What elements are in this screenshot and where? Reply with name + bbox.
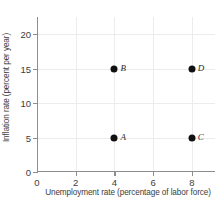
gridline-vertical [76,17,77,172]
x-axis-tick-label: 6 [150,177,155,188]
y-axis-tick [33,138,38,139]
x-axis-tick [114,171,115,176]
x-axis-tick-label: 2 [73,177,78,188]
data-point-label-c: C [198,132,204,142]
data-point-c [188,134,195,141]
y-axis-title: Inflation rate (percent per year) [0,0,14,175]
y-axis-tick [33,103,38,104]
gridline-horizontal [37,34,215,35]
data-point-label-a: A [120,132,126,142]
x-axis-tick-label: 8 [189,177,194,188]
y-axis-tick-label: 15 [20,63,31,74]
data-point-d [188,65,195,72]
plot-area: 0510152002468ABCD [37,17,215,172]
x-axis-tick-label: 0 [34,177,39,188]
data-point-label-b: B [120,63,126,73]
y-axis-tick [33,34,38,35]
y-axis-tick-label: 0 [26,167,31,178]
gridline-horizontal [37,103,215,104]
gridline-vertical [114,17,115,172]
data-point-b [111,65,118,72]
data-point-label-d: D [198,63,205,73]
y-axis-tick [33,69,38,70]
gridline-vertical [153,17,154,172]
x-axis-line [37,171,215,172]
x-axis-tick-label: 4 [112,177,117,188]
gridline-vertical [192,17,193,172]
x-axis-tick [192,171,193,176]
x-axis-tick [153,171,154,176]
y-axis-line [37,17,38,172]
data-point-a [111,134,118,141]
y-axis-tick-label: 5 [26,132,31,143]
x-axis-title: Unemployment rate (percentage of labor f… [36,188,220,197]
y-axis-tick [33,172,38,173]
x-axis-tick [76,171,77,176]
y-axis-tick-label: 10 [20,98,31,109]
scatter-chart: Inflation rate (percent per year) Unempl… [0,0,220,199]
y-axis-tick-label: 20 [20,29,31,40]
